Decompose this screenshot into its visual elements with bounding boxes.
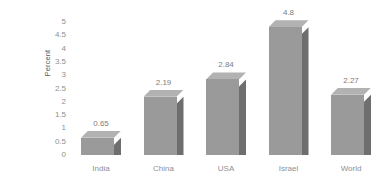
y-axis-tick-1: 1 [36, 124, 66, 132]
x-axis-category-label: USA [195, 164, 257, 173]
y-axis-tick-0: 0 [36, 151, 66, 159]
bar-chart: Percent 00.511.522.533.544.55 0.65India2… [0, 0, 379, 182]
bar-side-face [239, 79, 246, 155]
bar-side-face [114, 138, 121, 155]
bar-value-label: 0.65 [70, 119, 132, 128]
y-axis-tick-2.5: 2.5 [36, 85, 66, 93]
y-axis-tick-1.5: 1.5 [36, 111, 66, 119]
bar [81, 138, 114, 155]
bar-top-face [81, 131, 121, 138]
bar-group-israel: 4.8Israel [258, 0, 320, 182]
bar-side-face [177, 97, 184, 155]
bar-side-face [364, 95, 371, 155]
y-axis-tick-4: 4 [36, 45, 66, 53]
bar [331, 95, 364, 155]
y-axis-tick-2: 2 [36, 98, 66, 106]
plot-area: 0.65India2.19China2.84USA4.8Israel2.27Wo… [66, 0, 379, 182]
bar-value-label: 2.19 [133, 78, 195, 87]
x-axis-category-label: China [133, 164, 195, 173]
x-axis-category-label: World [320, 164, 379, 173]
bar-top-face [206, 72, 246, 79]
bar-front-face [144, 97, 177, 155]
y-axis-tick-5: 5 [36, 18, 66, 26]
x-axis-category-label: India [70, 164, 132, 173]
y-axis-tick-3: 3 [36, 71, 66, 79]
bar-front-face [269, 27, 302, 155]
bar-top-face [269, 20, 309, 27]
bar-group-china: 2.19China [133, 0, 195, 182]
bar [269, 27, 302, 155]
bar-top-face [331, 88, 371, 95]
bar-group-world: 2.27World [320, 0, 379, 182]
x-axis-category-label: Israel [258, 164, 320, 173]
bar-front-face [206, 79, 239, 155]
y-axis-tick-0.5: 0.5 [36, 138, 66, 146]
y-axis-tick-labels: 00.511.522.533.544.55 [36, 0, 66, 182]
bar-value-label: 4.8 [258, 8, 320, 17]
bar-front-face [331, 95, 364, 155]
bar [206, 79, 239, 155]
y-axis-tick-3.5: 3.5 [36, 58, 66, 66]
bar-top-face [144, 90, 184, 97]
bar-value-label: 2.27 [320, 76, 379, 85]
bar-value-label: 2.84 [195, 60, 257, 69]
y-axis-tick-4.5: 4.5 [36, 31, 66, 39]
bar-group-usa: 2.84USA [195, 0, 257, 182]
bar-group-india: 0.65India [70, 0, 132, 182]
bar-front-face [81, 138, 114, 155]
bar-side-face [302, 27, 309, 155]
bar [144, 97, 177, 155]
